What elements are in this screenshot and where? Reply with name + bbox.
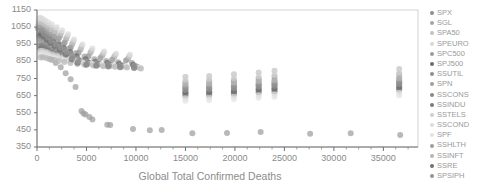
data-point (147, 127, 153, 133)
legend-item-label: SSHLTH (437, 140, 466, 150)
legend-item-speuro[interactable]: SPEURO (430, 39, 488, 49)
data-point (53, 41, 59, 47)
legend-item-label: SPJ500 (437, 59, 463, 69)
legend-item-label: SSINFT (437, 151, 464, 161)
legend-item-label: SPSIPH (437, 171, 465, 181)
data-point (396, 70, 402, 76)
data-point (231, 75, 237, 81)
legend-item-label: SGL (437, 18, 452, 28)
data-point (132, 64, 138, 70)
y-tick-label: 750 (1, 73, 31, 83)
data-point (130, 126, 136, 132)
legend-item-ssutil[interactable]: SSUTIL (430, 69, 488, 79)
data-point (70, 54, 76, 60)
data-point (272, 83, 278, 89)
data-point (159, 127, 165, 133)
data-point (206, 76, 212, 82)
legend-item-sscond[interactable]: SSCOND (430, 120, 488, 130)
legend-item-spsiph[interactable]: SPSIPH (430, 171, 488, 181)
x-axis-title: Global Total Confirmed Deaths (0, 170, 420, 182)
data-point (396, 81, 402, 87)
legend-item-label: SPA50 (437, 28, 460, 38)
legend-item-ssindu[interactable]: SSINDU (430, 100, 488, 110)
legend-item-spn[interactable]: SPN (430, 79, 488, 89)
data-point (107, 122, 113, 128)
chart-legend: SPXSGLSPA50SPEUROSPC500SPJ500SSUTILSPNSS… (430, 8, 488, 181)
legend-item-spa50[interactable]: SPA50 (430, 28, 488, 38)
data-point (396, 76, 402, 82)
data-point (231, 96, 237, 102)
x-tick-label: 20000 (211, 153, 259, 163)
data-point (94, 62, 100, 68)
data-point (182, 87, 188, 93)
legend-marker-icon (430, 123, 434, 127)
legend-item-label: SSUTIL (437, 69, 463, 79)
data-point (272, 72, 278, 78)
legend-marker-icon (430, 31, 434, 35)
data-point (182, 77, 188, 83)
data-point (54, 24, 60, 30)
legend-item-sgl[interactable]: SGL (430, 18, 488, 28)
plot-frame (37, 10, 418, 147)
legend-item-label: SSTELS (437, 110, 466, 120)
data-point (76, 58, 82, 64)
data-point (206, 86, 212, 92)
data-point (182, 98, 188, 104)
data-point (258, 129, 264, 135)
legend-item-label: SPN (437, 79, 452, 89)
data-point (224, 130, 230, 136)
x-tick-label: 5000 (62, 153, 110, 163)
data-point (46, 56, 52, 62)
y-tick-label: 950 (1, 38, 31, 48)
data-point (256, 74, 262, 80)
data-point (68, 76, 74, 82)
legend-item-spc500[interactable]: SPC500 (430, 49, 488, 59)
x-tick-label: 30000 (310, 153, 358, 163)
legend-marker-icon (430, 11, 434, 15)
legend-marker-icon (430, 21, 434, 25)
legend-item-spx[interactable]: SPX (430, 8, 488, 18)
data-point (106, 63, 112, 69)
x-tick-label: 10000 (112, 153, 160, 163)
y-tick-label: 350 (1, 141, 31, 151)
legend-item-label: SSINDU (437, 100, 465, 110)
plot-canvas (0, 0, 488, 192)
legend-item-ssinft[interactable]: SSINFT (430, 151, 488, 161)
data-point (89, 46, 95, 52)
legend-item-sscons[interactable]: SSCONS (430, 90, 488, 100)
legend-item-spj500[interactable]: SPJ500 (430, 59, 488, 69)
x-tick-label: 35000 (359, 153, 407, 163)
x-tick-label: 25000 (260, 153, 308, 163)
legend-marker-icon (430, 62, 434, 66)
legend-marker-icon (430, 42, 434, 46)
data-point (58, 45, 64, 51)
data-point (397, 132, 403, 138)
legend-item-sshlth[interactable]: SSHLTH (430, 140, 488, 150)
legend-item-label: SSRE (437, 161, 457, 171)
legend-marker-icon (430, 144, 434, 148)
y-tick-label: 1150 (1, 4, 31, 14)
data-point (64, 49, 70, 55)
data-point (127, 52, 133, 58)
legend-item-sstels[interactable]: SSTELS (430, 110, 488, 120)
data-point (138, 66, 144, 72)
data-point (206, 97, 212, 103)
data-point (256, 95, 262, 101)
x-tick-label: 0 (13, 153, 61, 163)
data-point (56, 58, 62, 64)
data-point (89, 117, 95, 123)
data-point (256, 83, 262, 89)
legend-item-spf[interactable]: SPF (430, 130, 488, 140)
y-tick-label: 1050 (1, 21, 31, 31)
data-point (61, 59, 67, 65)
data-point (231, 85, 237, 91)
scatter-chart: Global Total Confirmed Deaths 3504505506… (0, 0, 488, 192)
legend-marker-icon (430, 133, 434, 137)
legend-marker-icon (430, 93, 434, 97)
legend-marker-icon (430, 52, 434, 56)
legend-item-label: SSCOND (437, 120, 469, 130)
legend-item-ssre[interactable]: SSRE (430, 161, 488, 171)
legend-marker-icon (430, 164, 434, 168)
legend-marker-icon (430, 154, 434, 158)
legend-marker-icon (430, 82, 434, 86)
